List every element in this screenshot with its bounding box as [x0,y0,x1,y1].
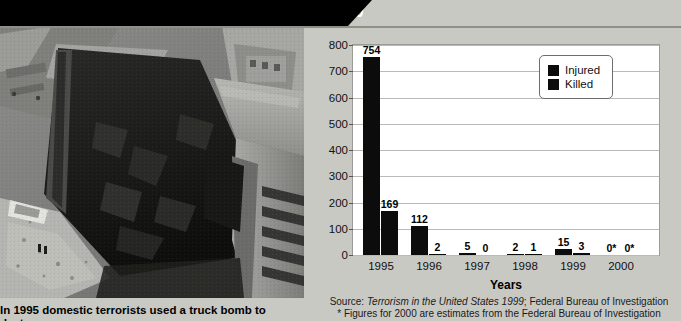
bar-value-killed-1997: 0 [483,242,489,254]
ytick-mark-0 [349,255,353,256]
x-axis-title: Years [352,278,660,292]
gridline-100: 100 [353,229,659,230]
bar-value-injured-2000: 0* [607,242,617,254]
bar-killed-1996[interactable]: 2 [429,254,446,256]
source-line-1: Source: Terrorism in the United States 1… [324,296,674,308]
bar-value-killed-1999: 3 [579,240,585,252]
legend-label-killed: Killed [565,78,593,90]
gridline-400: 400 [353,150,659,151]
bar-value-killed-1995: 169 [381,198,399,210]
gridline-500: 500 [353,124,659,125]
ytick-label-600: 600 [329,92,348,104]
ytick-label-0: 0 [342,249,348,261]
gridline-300: 300 [353,176,659,177]
ytick-label-300: 300 [329,170,348,182]
ytick-label-800: 800 [329,39,348,51]
gridline-0: 0 [353,255,659,256]
xtick-label-1995: 1995 [368,260,394,272]
legend-swatch-killed-icon [548,79,559,90]
xtick-label-1998: 1998 [512,260,538,272]
xtick-label-2000: 2000 [608,260,634,272]
infographic-page: Casualties of Terrorism in the U.S., 199… [0,0,681,321]
source-note: Source: Terrorism in the United States 1… [324,296,674,319]
bar-value-injured-1999: 15 [558,236,570,248]
ytick-mark-800 [349,45,353,46]
bar-value-injured-1998: 2 [513,241,519,253]
photo-caption: In 1995 domestic terrorists used a truck… [0,300,304,321]
ytick-mark-500 [349,124,353,125]
bar-killed-1995[interactable]: 169 [381,211,398,255]
legend-swatch-injured-icon [548,65,559,76]
bar-injured-1998[interactable]: 2 [507,254,524,256]
gridline-700: 700 [353,71,659,72]
ytick-label-100: 100 [329,223,348,235]
ytick-label-500: 500 [329,118,348,130]
bar-chart: 800 700 600 500 400 300 [308,30,681,321]
photo-graphic [0,26,304,298]
ytick-mark-100 [349,229,353,230]
bar-value-injured-1995: 754 [363,44,381,56]
bar-value-injured-1997: 5 [465,240,471,252]
source-prefix: Source: [330,296,367,307]
bar-injured-1997[interactable]: 5 [459,253,476,255]
title-divider [0,26,681,28]
ytick-mark-700 [349,71,353,72]
ytick-label-700: 700 [329,65,348,77]
ytick-label-400: 400 [329,144,348,156]
bar-injured-1999[interactable]: 15 [555,249,572,255]
ytick-mark-300 [349,176,353,177]
source-suffix: ; Federal Bureau of Investigation [524,296,669,307]
ytick-mark-400 [349,150,353,151]
ytick-label-200: 200 [329,197,348,209]
bar-killed-1998[interactable]: 1 [525,254,542,255]
chart-legend: Injured Killed [539,55,613,99]
bar-value-killed-1998: 1 [531,241,537,253]
gridline-800: 800 [353,45,659,46]
bar-injured-1995[interactable]: 754 [363,57,380,255]
title-banner [0,0,372,26]
ytick-mark-600 [349,98,353,99]
source-line-2: * Figures for 2000 are estimates from th… [324,308,674,320]
xtick-label-1996: 1996 [416,260,442,272]
bar-value-killed-1996: 2 [435,241,441,253]
legend-item-killed[interactable]: Killed [548,78,600,90]
aerial-photo-bombed-building [0,26,304,298]
ytick-mark-200 [349,203,353,204]
gridline-200: 200 [353,203,659,204]
xtick-label-1997: 1997 [464,260,490,272]
gridline-600: 600 [353,98,659,99]
plot-area: 800 700 600 500 400 300 [352,44,660,256]
bar-value-killed-2000: 0* [625,242,635,254]
bar-value-injured-1996: 112 [411,213,428,225]
bar-injured-1996[interactable]: 112 [411,226,428,255]
legend-label-injured: Injured [565,64,600,76]
legend-item-injured[interactable]: Injured [548,64,600,76]
bar-killed-1999[interactable]: 3 [573,253,590,255]
source-title-italic: Terrorism in the United States 1999 [367,296,524,307]
xtick-label-1999: 1999 [560,260,586,272]
